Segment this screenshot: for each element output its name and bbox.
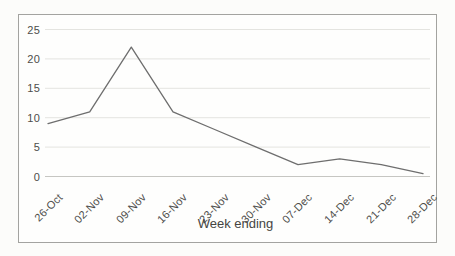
chart-frame: 0510152025 26-Oct02-Nov09-Nov16-Nov23-No… <box>18 14 437 243</box>
y-axis-tick-label: 20 <box>19 53 40 65</box>
x-axis-title: Week ending <box>48 216 423 231</box>
y-axis-tick-label: 0 <box>19 171 40 183</box>
y-axis-tick-label: 10 <box>19 112 40 124</box>
data-series-line <box>48 47 423 174</box>
y-axis-tick-label: 5 <box>19 141 40 153</box>
y-axis-tick-label: 15 <box>19 82 40 94</box>
y-axis-tick-label: 25 <box>19 24 40 36</box>
